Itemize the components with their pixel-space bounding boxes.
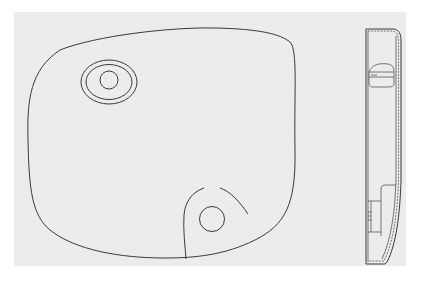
oval-boss-hole [100, 71, 118, 89]
side-view [366, 29, 401, 264]
upper-clip [369, 64, 394, 87]
upper-clip-detail [369, 72, 394, 77]
oval-boss-outer [81, 60, 137, 104]
lower-mount-ticks [368, 212, 371, 220]
cutout-arc-right [220, 188, 248, 214]
technical-drawing [0, 0, 428, 283]
bottom-opening-circle [200, 207, 225, 232]
lower-mount-block [368, 185, 396, 236]
front-view [28, 28, 295, 259]
lower-mount-tab [368, 201, 381, 232]
side-back-wall [366, 29, 385, 264]
oval-boss-inner [86, 65, 132, 100]
cutout-arc-left [184, 188, 204, 259]
side-shell-hatch [368, 31, 399, 261]
front-outer-outline [28, 28, 295, 258]
